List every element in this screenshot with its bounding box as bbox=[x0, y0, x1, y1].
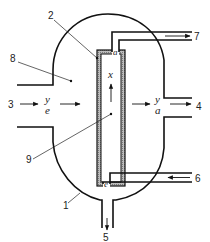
var-outlet-sub: a bbox=[155, 104, 161, 116]
label-membrane-wall: 2 bbox=[48, 10, 54, 21]
label-inner-inlet: 6 bbox=[195, 173, 201, 184]
label-outlet-bottom: 5 bbox=[103, 232, 109, 242]
label-inner-outlet: 7 bbox=[194, 31, 200, 42]
label-outlet-side: 4 bbox=[196, 101, 202, 112]
label-outer-chamber: 8 bbox=[10, 53, 16, 64]
var-top-marker: a bbox=[113, 47, 118, 57]
label-inner-chamber: 9 bbox=[26, 154, 32, 165]
var-axial: x bbox=[107, 68, 113, 80]
label-inlet: 3 bbox=[8, 99, 14, 110]
pipe-7 bbox=[112, 32, 192, 52]
label-vessel: 1 bbox=[63, 200, 69, 211]
var-inlet-sub: e bbox=[45, 104, 50, 116]
var-bottom-marker: e bbox=[104, 179, 108, 189]
reactor-diagram: 2 8 3 4 7 6 5 9 1 y e y a x a e bbox=[0, 0, 210, 242]
